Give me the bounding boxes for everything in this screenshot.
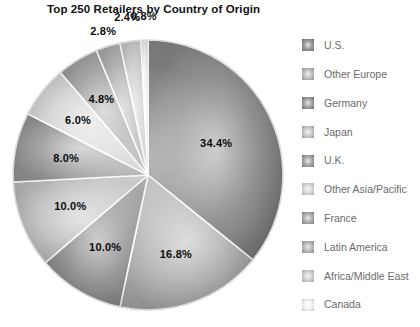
slice-value-label: 0.8% xyxy=(131,10,157,22)
legend-swatch-icon xyxy=(302,68,314,80)
legend-item[interactable]: Africa/Middle East xyxy=(300,261,420,290)
slice-value-label: 16.8% xyxy=(160,248,192,260)
legend-item-label: France xyxy=(324,213,357,224)
legend-swatch-icon xyxy=(302,155,314,167)
legend-item-label: U.S. xyxy=(324,40,344,51)
slice-value-label: 4.8% xyxy=(88,93,114,105)
legend-swatch-icon xyxy=(302,39,314,51)
legend-item[interactable]: Other Europe xyxy=(300,60,420,89)
legend-item-label: Germany xyxy=(324,98,367,109)
legend-item[interactable]: Latin America xyxy=(300,233,420,262)
legend-item[interactable]: U.K. xyxy=(300,146,420,175)
slice-value-label: 2.8% xyxy=(90,25,116,37)
slice-value-label: 10.0% xyxy=(89,241,121,253)
slice-value-label: 10.0% xyxy=(54,200,86,212)
legend-swatch-icon xyxy=(302,183,314,195)
legend-item[interactable]: Germany xyxy=(300,89,420,118)
legend-item-label: Japan xyxy=(324,127,353,138)
legend-item[interactable]: U.S. xyxy=(300,31,420,60)
legend-item-label: Other Asia/Pacific xyxy=(324,184,407,195)
legend-swatch-icon xyxy=(302,241,314,253)
pie-slices-group xyxy=(13,40,283,310)
legend-item-label: U.K. xyxy=(324,155,344,166)
legend-swatch-icon xyxy=(302,212,314,224)
legend-swatch-icon xyxy=(302,299,314,311)
legend-item-label: Africa/Middle East xyxy=(324,271,409,282)
legend-item[interactable]: Other Asia/Pacific xyxy=(300,175,420,204)
legend-item[interactable]: Japan xyxy=(300,117,420,146)
legend-swatch-icon xyxy=(302,270,314,282)
slice-value-label: 8.0% xyxy=(53,152,79,164)
legend-item[interactable]: Canada xyxy=(300,290,420,319)
legend-item-label: Other Europe xyxy=(324,69,387,80)
slice-value-label: 34.4% xyxy=(200,137,232,149)
legend-item-label: Latin America xyxy=(324,242,388,253)
legend-swatch-icon xyxy=(302,126,314,138)
legend-item-label: Canada xyxy=(324,299,361,310)
pie-chart-figure: Top 250 Retailers by Country of Origin 3… xyxy=(0,0,420,327)
chart-legend: U.S.Other EuropeGermanyJapanU.K.Other As… xyxy=(300,31,420,319)
legend-item[interactable]: France xyxy=(300,204,420,233)
slice-value-label: 6.0% xyxy=(65,114,91,126)
pie-plot-area: 34.4%16.8%10.0%10.0%8.0%6.0%4.8%2.8%2.4%… xyxy=(0,18,300,327)
legend-swatch-icon xyxy=(302,97,314,109)
pie-svg xyxy=(0,18,300,327)
